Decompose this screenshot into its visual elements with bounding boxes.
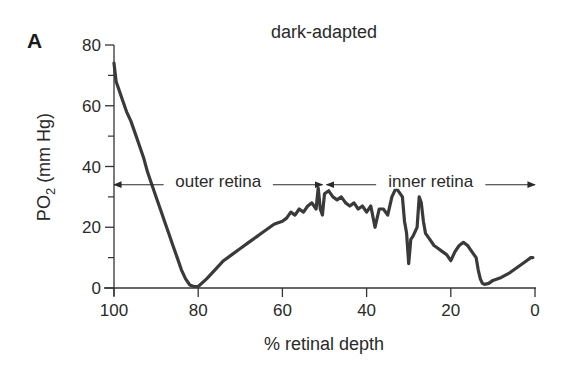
annotation-label: inner retina (388, 172, 474, 191)
y-axis-label: PO2 (mm Hg) (34, 113, 58, 221)
chart: A dark-adapted 020406080 100806040200 PO… (0, 0, 566, 374)
x-tick-label: 60 (273, 301, 292, 320)
y-tick-label: 80 (82, 36, 101, 55)
y-tick-label: 40 (82, 158, 101, 177)
x-tick-label: 40 (357, 301, 376, 320)
y-axis: 020406080 (82, 36, 114, 298)
annotation-outer-retina: outer retina (114, 169, 323, 191)
x-tick-label: 80 (189, 301, 208, 320)
x-axis: 100806040200 (100, 288, 540, 320)
x-axis-label: % retinal depth (264, 334, 384, 354)
annotation-label: outer retina (175, 172, 262, 191)
x-ticks: 100806040200 (100, 288, 540, 320)
annotation-inner-retina: inner retina (327, 169, 536, 191)
y-tick-label: 60 (82, 97, 101, 116)
y-ticks: 020406080 (82, 36, 114, 298)
x-tick-label: 0 (530, 301, 539, 320)
chart-title: dark-adapted (271, 22, 377, 42)
region-annotations: outer retinainner retina (114, 169, 535, 191)
y-tick-label: 20 (82, 218, 101, 237)
x-tick-label: 100 (100, 301, 128, 320)
x-tick-label: 20 (441, 301, 460, 320)
panel-label: A (27, 29, 42, 52)
y-tick-label: 0 (92, 279, 101, 298)
